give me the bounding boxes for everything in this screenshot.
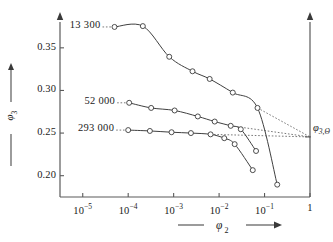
data-point-marker [112, 24, 117, 29]
x-axis-tick-label: 10−5 [63, 202, 103, 216]
series-label-13300: 13 300 [70, 19, 101, 30]
data-point-marker [167, 54, 172, 59]
data-point-marker [254, 148, 259, 153]
data-point-marker [140, 24, 145, 29]
series-curve-2 [128, 130, 253, 170]
x-tick-base: 10 [164, 205, 175, 216]
data-point-marker [275, 182, 280, 187]
x-tick-base: 10 [73, 205, 84, 216]
x-axis-title-subscript: 2 [225, 226, 229, 235]
data-point-marker [212, 119, 217, 124]
y-axis-title-phi: φ [3, 114, 15, 120]
asymptote-lines-layer [103, 27, 311, 137]
data-point-marker [222, 136, 227, 141]
y-axis-title: φ3 [2, 62, 20, 172]
y-axis-title-symbol: φ3 [3, 100, 18, 132]
x-axis-tick-label: 1 [290, 202, 330, 213]
y-axis-tick-label: 0.20 [20, 169, 56, 180]
y-axis-title-subscript: 3 [10, 111, 19, 115]
data-point-marker [126, 128, 131, 133]
data-markers-layer [112, 24, 280, 188]
data-point-marker [127, 100, 132, 105]
y-axis-tick-label: 0.30 [20, 83, 56, 94]
right-axis-asymptote-label: φ3,Θ [313, 122, 330, 136]
y-axis-tick-label: 0.25 [20, 126, 56, 137]
data-point-marker [255, 105, 260, 110]
data-point-marker [208, 132, 213, 137]
x-tick-exponent: −3 [175, 202, 183, 211]
x-axis-title-graphic: φ 2 [176, 214, 286, 234]
x-tick-exponent: −2 [220, 202, 228, 211]
data-point-marker [228, 123, 233, 128]
data-point-marker [207, 76, 212, 81]
data-curves-layer [115, 24, 278, 185]
y-axis-arrowhead [57, 12, 63, 20]
data-point-marker [238, 127, 243, 132]
series-curve-0 [115, 24, 278, 185]
data-point-marker [172, 108, 177, 113]
x-tick-exponent: −4 [129, 202, 137, 211]
data-point-marker [230, 90, 235, 95]
x-axis-title: φ 2 [176, 214, 286, 234]
x-tick-exponent: −5 [84, 202, 92, 211]
data-point-marker [190, 69, 195, 74]
figure-container: 0.350.300.250.20 10−510−410−310−210−11 1… [0, 0, 333, 242]
data-point-marker [195, 114, 200, 119]
data-point-marker [250, 168, 255, 173]
data-point-marker [147, 128, 152, 133]
x-tick-base: 10 [119, 205, 130, 216]
data-point-marker [149, 105, 154, 110]
series-label-293000: 293 000 [78, 122, 114, 133]
data-point-marker [232, 142, 237, 147]
right-axis-subscript: 3,Θ [319, 127, 330, 136]
series-label-52000: 52 000 [84, 95, 115, 106]
x-axis-tick-label: 10−4 [108, 202, 148, 216]
x-tick-exponent: −1 [266, 202, 274, 211]
x-axis-title-symbol: φ [216, 219, 223, 232]
right-axis-arrowhead [307, 12, 313, 20]
data-point-marker [188, 131, 193, 136]
y-axis-tick-label: 0.35 [20, 41, 56, 52]
data-point-marker [169, 130, 174, 135]
